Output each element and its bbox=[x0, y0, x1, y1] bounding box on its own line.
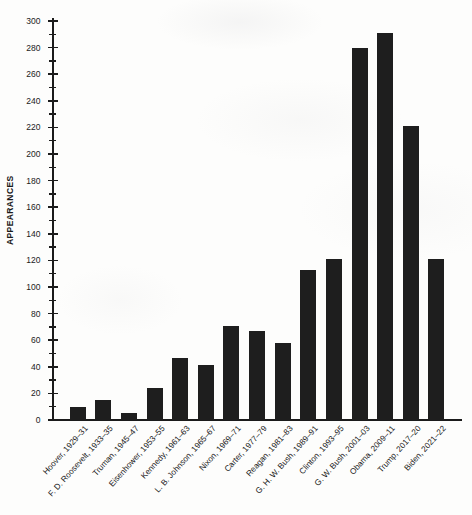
bar bbox=[70, 407, 86, 420]
y-tick-major: 180 bbox=[48, 180, 58, 182]
y-tick-minor bbox=[49, 220, 56, 221]
x-axis-label: Hoover, 1929–31 bbox=[41, 424, 89, 476]
y-tick-minor bbox=[49, 379, 56, 380]
y-tick-minor bbox=[49, 87, 56, 88]
y-tick-label: 140 bbox=[26, 229, 40, 239]
y-tick-label: 100 bbox=[26, 282, 40, 292]
y-tick-label: 160 bbox=[26, 202, 40, 212]
y-tick-major: 220 bbox=[48, 127, 58, 129]
y-tick-label: 120 bbox=[26, 255, 40, 265]
y-tick-minor bbox=[49, 193, 56, 194]
y-tick-major: 20 bbox=[48, 393, 58, 395]
y-tick-label: 0 bbox=[36, 415, 41, 425]
bar bbox=[377, 33, 393, 420]
bar bbox=[275, 343, 291, 420]
y-tick-minor bbox=[49, 113, 56, 114]
y-tick-label: 260 bbox=[26, 69, 40, 79]
bar bbox=[249, 331, 265, 420]
x-axis-label: Truman, 1945–47 bbox=[91, 424, 141, 478]
chart-page: APPEARANCES 0204060801001201401601802002… bbox=[0, 0, 472, 515]
plot-area: 0204060801001201401601802002202402602803… bbox=[52, 21, 462, 420]
y-tick-major: 80 bbox=[48, 313, 58, 315]
y-tick-major: 280 bbox=[48, 47, 58, 49]
y-tick-label: 280 bbox=[26, 43, 40, 53]
y-tick-minor bbox=[49, 140, 56, 141]
bar bbox=[403, 126, 419, 420]
y-tick-label: 40 bbox=[31, 362, 40, 372]
bar bbox=[428, 259, 444, 420]
y-tick-major: 300 bbox=[48, 20, 58, 22]
y-tick-minor bbox=[49, 34, 56, 35]
y-tick-minor bbox=[49, 246, 56, 247]
y-tick-minor bbox=[49, 273, 56, 274]
y-tick-major: 60 bbox=[48, 339, 58, 341]
y-tick-minor bbox=[49, 60, 56, 61]
y-tick-major: 100 bbox=[48, 286, 58, 288]
y-tick-minor bbox=[49, 167, 56, 168]
y-tick-major: 0 bbox=[48, 419, 58, 421]
bar bbox=[223, 326, 239, 420]
bar bbox=[352, 48, 368, 420]
y-tick-label: 80 bbox=[31, 309, 40, 319]
y-axis-title: APPEARANCES bbox=[2, 150, 18, 270]
y-tick-major: 260 bbox=[48, 73, 58, 75]
bar bbox=[198, 365, 214, 420]
y-tick-label: 180 bbox=[26, 176, 40, 186]
y-tick-major: 160 bbox=[48, 206, 58, 208]
y-tick-major: 40 bbox=[48, 366, 58, 368]
bar bbox=[121, 413, 137, 420]
y-tick-label: 60 bbox=[31, 335, 40, 345]
y-tick-label: 220 bbox=[26, 122, 40, 132]
y-tick-label: 200 bbox=[26, 149, 40, 159]
y-tick-major: 120 bbox=[48, 260, 58, 262]
y-tick-label: 300 bbox=[26, 16, 40, 26]
y-tick-minor bbox=[49, 326, 56, 327]
bar bbox=[172, 358, 188, 421]
y-tick-label: 240 bbox=[26, 96, 40, 106]
y-tick-minor bbox=[49, 300, 56, 301]
y-tick-minor bbox=[49, 406, 56, 407]
y-tick-major: 140 bbox=[48, 233, 58, 235]
y-tick-minor bbox=[49, 353, 56, 354]
bar bbox=[326, 259, 342, 420]
y-tick-major: 240 bbox=[48, 100, 58, 102]
y-tick-major: 200 bbox=[48, 153, 58, 155]
bar bbox=[95, 400, 111, 420]
bar bbox=[147, 388, 163, 420]
y-tick-label: 20 bbox=[31, 388, 40, 398]
bar bbox=[300, 270, 316, 420]
x-axis-label: Obama, 2009–11 bbox=[348, 424, 397, 477]
